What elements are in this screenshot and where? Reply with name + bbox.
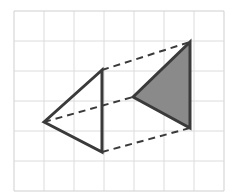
preimage-triangle (44, 70, 102, 152)
image-triangle (133, 42, 190, 128)
figure-canvas (0, 0, 252, 192)
geometry-figure (0, 0, 252, 192)
dashed-line-bottom (102, 128, 190, 152)
triangles-group (44, 42, 190, 152)
